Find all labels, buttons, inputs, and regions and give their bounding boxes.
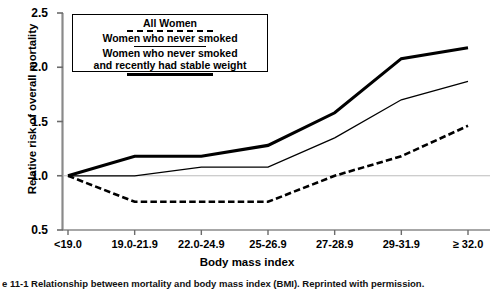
- x-tick-label-3: 25-26.9: [249, 238, 286, 250]
- x-tick-label-0: <19.0: [54, 238, 82, 250]
- legend-label-stable-weight-line2: and recently had stable weight: [73, 60, 267, 72]
- x-axis-title: Body mass index: [0, 256, 494, 268]
- figure-caption: e 11-1 Relationship between mortality an…: [2, 278, 494, 289]
- legend-label-never-smoked: Women who never smoked: [73, 33, 267, 45]
- x-tick-label-1: 19.0-21.9: [111, 238, 157, 250]
- legend-label-all-women: All Women: [73, 18, 267, 30]
- x-tick-label-6: ≥ 32.0: [453, 238, 484, 250]
- series-line-never-smoked: [68, 81, 468, 175]
- x-tick-label-2: 22.0-24.9: [178, 238, 224, 250]
- series-line-never-smoked-stable-weight: [68, 126, 468, 202]
- legend-entry-never-smoked: Women who never smoked: [73, 33, 267, 48]
- x-axis-tick-labels: <19.019.0-21.922.0-24.925-26.927-28.929-…: [0, 238, 494, 254]
- legend-sample-thick-solid: [127, 73, 213, 76]
- legend: All Women Women who never smoked Women w…: [72, 14, 268, 72]
- legend-entry-never-smoked-stable-weight: Women who never smoked and recently had …: [73, 48, 267, 75]
- x-tick-label-4: 27-28.9: [316, 238, 353, 250]
- x-tick-label-5: 29-31.9: [383, 238, 420, 250]
- legend-entry-all-women: All Women: [73, 15, 267, 32]
